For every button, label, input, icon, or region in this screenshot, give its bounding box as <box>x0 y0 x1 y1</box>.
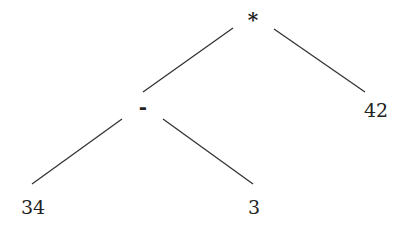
node-leaf-34: 34 <box>21 198 45 217</box>
edge-minus-to-3 <box>163 119 253 184</box>
edge-times-to-42 <box>274 29 365 92</box>
expression-tree-diagram: * - 42 34 3 <box>0 0 399 234</box>
node-leaf-42: 42 <box>364 101 388 120</box>
edge-times-to-minus <box>143 28 233 92</box>
edge-minus-to-34 <box>32 119 122 184</box>
node-leaf-3: 3 <box>248 198 260 217</box>
tree-edges <box>0 0 399 234</box>
node-multiply: * <box>248 10 258 30</box>
node-subtract: - <box>139 97 147 117</box>
